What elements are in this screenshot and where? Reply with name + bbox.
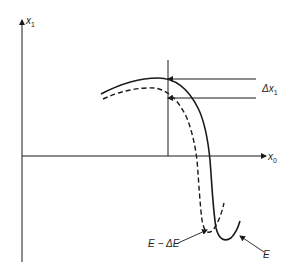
E-minus-dE-label: E − ΔE [148,239,179,249]
energy-contour-diagram [0,0,307,273]
y-axis-label: x1 [26,16,35,28]
curve-E-minus-dE [103,88,224,232]
E-label: E [263,250,270,260]
E-minus-dE-pointer [178,230,207,243]
delta-x1-label: Δx1 [262,84,278,96]
x-axis-label: x0 [268,152,277,164]
E-pointer [240,236,264,252]
curve-E [101,78,240,240]
